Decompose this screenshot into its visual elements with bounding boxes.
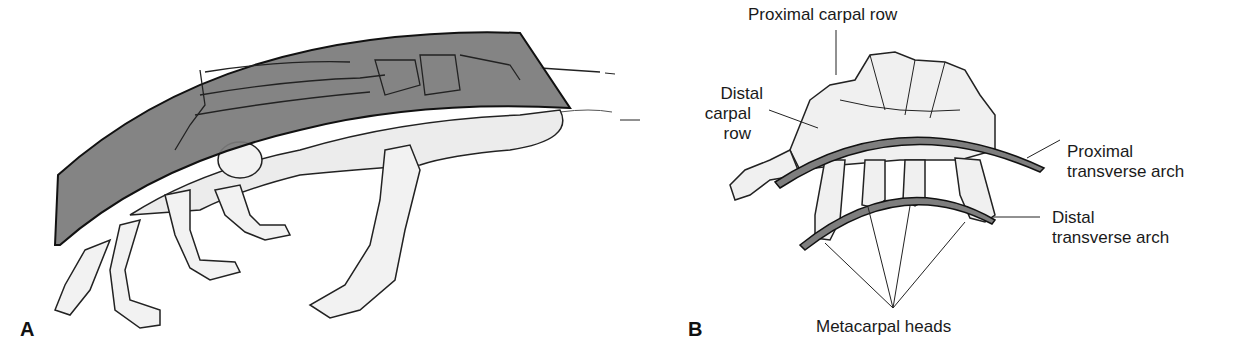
label-distal-carpal-row: Distal carpal row [711,84,763,144]
panel-a-drawing [55,32,640,328]
label-distal-carpal-row-line2: carpal row [699,104,751,144]
label-distal-carpal-row-line1: Distal [711,84,763,104]
panel-label-a: A [20,318,34,341]
anatomy-illustration [0,0,1239,359]
label-proximal-transverse-arch: Proximal transverse arch [1067,142,1184,182]
label-proximal-carpal-row: Proximal carpal row [748,5,897,25]
label-proximal-arch-line1: Proximal [1067,142,1184,162]
panel-label-b: B [688,318,702,341]
label-metacarpal-heads: Metacarpal heads [816,317,951,337]
label-distal-transverse-arch: Distal transverse arch [1052,208,1169,248]
label-proximal-arch-line2: transverse arch [1067,162,1184,182]
label-distal-arch-line1: Distal [1052,208,1169,228]
panel-b-drawing [730,30,1060,308]
label-distal-arch-line2: transverse arch [1052,228,1169,248]
